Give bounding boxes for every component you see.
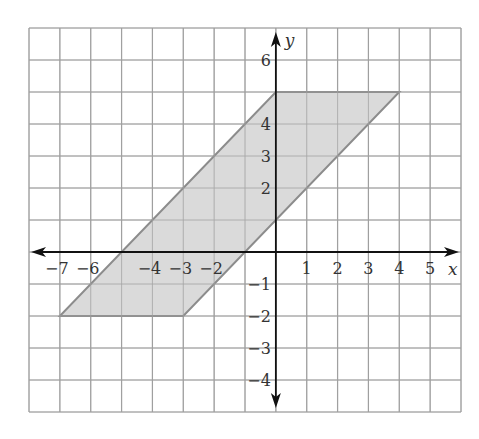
y-tick-label: 2 [261,179,271,198]
x-tick-label: −2 [199,259,223,278]
shaded-region [29,28,461,412]
y-tick-label: 3 [261,147,271,166]
y-axis-label: y [284,30,295,50]
x-tick-label: −6 [76,259,100,278]
y-tick-label: −4 [247,371,271,390]
y-tick-label: 4 [261,115,271,134]
y-tick-label: 6 [261,51,271,70]
x-tick-label: −4 [138,259,162,278]
x-tick-label: 3 [363,259,373,278]
coordinate-plane: −7−6−4−3−2123456432−1−2−3−4xy [0,0,479,439]
x-tick-label: 2 [332,259,342,278]
y-tick-label: −2 [247,307,271,326]
x-tick-label: −7 [45,259,69,278]
x-axis-label: x [448,259,458,279]
y-tick-label: −3 [247,339,271,358]
parallelogram [60,92,399,316]
x-tick-label: −3 [168,259,192,278]
x-tick-label: 1 [302,259,312,278]
x-tick-label: 4 [394,259,404,278]
y-tick-label: −1 [247,275,271,294]
x-tick-label: 5 [425,259,435,278]
